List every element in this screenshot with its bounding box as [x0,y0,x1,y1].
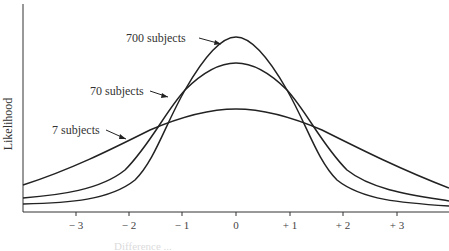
tick-label: + 3 [390,219,405,231]
label-7-subjects: 7 subjects [52,123,100,137]
curve-7-subjects [23,109,449,188]
y-axis-label: Likelihood [1,98,15,151]
tick-label: − 3 [69,219,84,231]
label-70-subjects: 70 subjects [90,84,144,98]
tick-label: 0 [233,219,239,231]
tick-label: − 2 [122,219,136,231]
x-axis-label: Difference ... [114,240,172,251]
likelihood-chart: 700 subjects 70 subjects 7 subjects Like… [0,0,449,251]
label-700-subjects: 700 subjects [126,31,186,45]
tick-label: + 1 [283,219,297,231]
x-ticks [76,212,397,216]
tick-label: + 2 [336,219,350,231]
tick-label: − 1 [175,219,189,231]
